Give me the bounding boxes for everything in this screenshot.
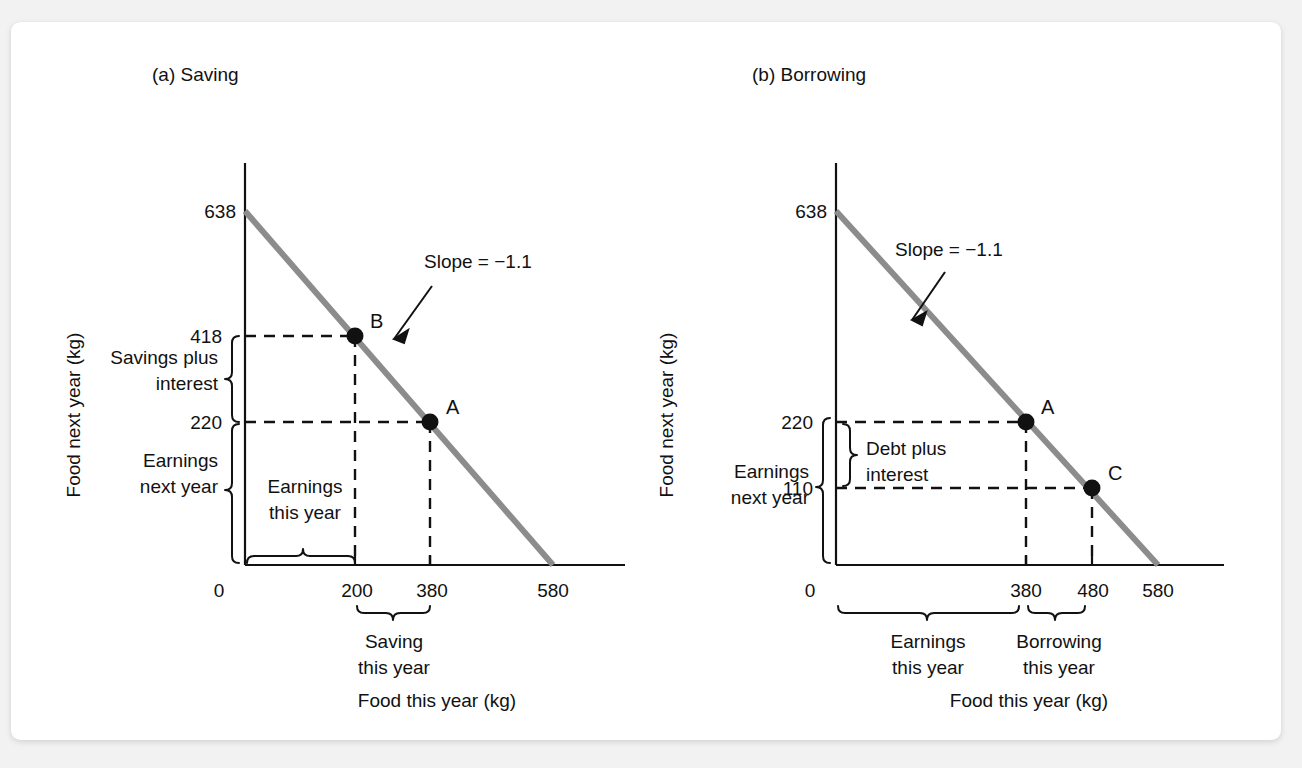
panel-b-x-tick-0: 0 xyxy=(805,580,816,601)
panel-a-x-axis-label: Food this year (kg) xyxy=(358,690,516,711)
panel-b-point-c xyxy=(1084,480,1101,497)
panel-b-debt-label-2: interest xyxy=(866,464,929,485)
panel-a-brace-earnings-next-year xyxy=(225,424,239,563)
panel-a-brace-earnings-next-label-1: Earnings xyxy=(143,450,218,471)
panel-borrowing: (b) Borrowing Food next year (kg) A C Sl… xyxy=(656,64,1224,711)
panel-b-y-tick-638: 638 xyxy=(795,201,827,222)
panel-b-x-tick-480: 480 xyxy=(1077,580,1109,601)
panel-a-point-b xyxy=(347,328,364,345)
panel-a-point-a xyxy=(422,414,439,431)
panel-a-bottom-brace-earnings-this-year xyxy=(247,549,355,563)
panel-a-slope-label: Slope = −1.1 xyxy=(424,251,532,272)
panel-a-x-tick-380: 380 xyxy=(416,580,448,601)
panel-b-brace-earnings-next-label-2: next year xyxy=(731,487,810,508)
panel-b-slope-arrow-head xyxy=(912,312,926,325)
panel-b-x-tick-380: 380 xyxy=(1010,580,1042,601)
panel-b-slope-label: Slope = −1.1 xyxy=(895,239,1003,260)
panel-b-bottom-brace-earnings-this-year xyxy=(838,606,1019,620)
panel-a-x-tick-580: 580 xyxy=(537,580,569,601)
panel-a-saving-brace-label-1: Saving xyxy=(365,631,423,652)
panel-b-borrowing-label-2: this year xyxy=(1023,657,1095,678)
panel-a-y-tick-638: 638 xyxy=(204,201,236,222)
panel-a-inside-label-1: Earnings xyxy=(268,476,343,497)
panel-b-x-tick-580: 580 xyxy=(1142,580,1174,601)
panel-a-slope-arrow-head xyxy=(394,330,408,343)
panel-b-point-c-label: C xyxy=(1108,462,1122,484)
economics-figure: (a) Saving Food next year (kg) B A Slope… xyxy=(0,0,1302,768)
panel-b-budget-line xyxy=(836,211,1158,565)
panel-a-inside-label-2: this year xyxy=(269,502,341,523)
panel-a-bottom-brace-saving-this-year xyxy=(357,606,430,620)
panel-a-point-b-label: B xyxy=(370,310,383,332)
panel-b-point-a xyxy=(1018,414,1035,431)
panel-a-slope-arrow-line xyxy=(394,286,432,339)
panel-b-brace-debt-plus-interest xyxy=(843,424,857,486)
panel-b-brace-earnings-next-label-1: Earnings xyxy=(734,461,809,482)
panel-a-x-tick-0: 0 xyxy=(214,580,225,601)
panel-b-y-tick-220: 220 xyxy=(781,412,813,433)
panel-a-brace-savings-plus-interest xyxy=(225,336,239,422)
panel-a-y-tick-418: 418 xyxy=(190,326,222,347)
panel-b-bottom-brace-borrowing-this-year xyxy=(1028,606,1085,620)
panel-a-y-axis-label: Food next year (kg) xyxy=(63,333,84,498)
panel-b-earnings-this-label-2: this year xyxy=(892,657,964,678)
panel-a-brace-savings-label-1: Savings plus xyxy=(110,347,218,368)
panel-a-brace-earnings-next-label-2: next year xyxy=(140,476,219,497)
panel-b-title: (b) Borrowing xyxy=(752,64,866,85)
panel-a-saving-brace-label-2: this year xyxy=(358,657,430,678)
panel-b-earnings-this-label-1: Earnings xyxy=(891,631,966,652)
panel-a-title: (a) Saving xyxy=(152,64,239,85)
panel-b-y-axis-label: Food next year (kg) xyxy=(656,333,677,498)
panel-b-debt-label-1: Debt plus xyxy=(866,438,946,459)
panel-a-y-tick-220: 220 xyxy=(190,412,222,433)
panel-a-brace-savings-label-2: interest xyxy=(156,373,219,394)
panel-a-point-a-label: A xyxy=(446,396,460,418)
panel-saving: (a) Saving Food next year (kg) B A Slope… xyxy=(63,64,625,711)
panel-b-x-axis-label: Food this year (kg) xyxy=(950,690,1108,711)
panel-b-point-a-label: A xyxy=(1041,396,1055,418)
figure-page: (a) Saving Food next year (kg) B A Slope… xyxy=(0,0,1302,768)
panel-a-x-tick-200: 200 xyxy=(341,580,373,601)
panel-b-borrowing-label-1: Borrowing xyxy=(1016,631,1102,652)
panel-b-brace-earnings-next-year xyxy=(816,418,830,563)
